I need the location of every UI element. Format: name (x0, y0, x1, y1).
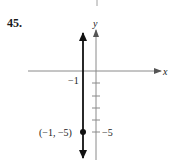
x-axis-label: x (162, 66, 168, 77)
point-label: (−1, −5) (39, 127, 72, 139)
y-tick-label-neg5: −5 (102, 127, 113, 138)
y-axis-label: y (92, 18, 98, 29)
x-tick-label-neg1: −1 (68, 75, 79, 86)
coordinate-plot: y x −1 −5 (−1, −5) (0, 0, 195, 168)
point-neg1-neg5 (80, 129, 86, 135)
